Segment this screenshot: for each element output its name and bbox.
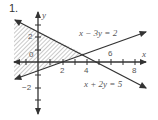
graph-svg — [0, 0, 158, 120]
inequality-graph: 1. y x x − 3y = 2 x + 2y = 5 2 4 6 8 2 0… — [0, 0, 158, 120]
y-axis-arrow-down — [35, 108, 41, 115]
x-axis-arrow-right — [140, 59, 147, 65]
problem-number: 1. — [9, 2, 18, 14]
x-tick-label-2: 2 — [60, 66, 64, 75]
y-axis-arrow-up — [35, 11, 41, 18]
x-tick-label-8: 8 — [132, 66, 136, 75]
y-axis-label: y — [42, 10, 46, 20]
y-tick-label-2: 2 — [28, 32, 32, 41]
y-tick-label-0: 0 — [29, 50, 33, 59]
line1-label: x − 3y = 2 — [79, 28, 117, 38]
line2-label: x + 2y = 5 — [84, 79, 122, 89]
x-axis-label: x — [142, 49, 146, 59]
x-tick-label-4: 4 — [84, 66, 88, 75]
arrow-line1-right — [139, 31, 147, 37]
y-tick-label-neg2: −2 — [22, 83, 31, 92]
x-tick-label-6: 6 — [108, 49, 112, 58]
